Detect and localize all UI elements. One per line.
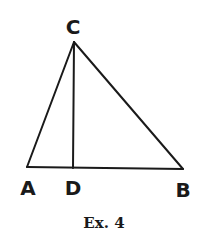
figure-caption: Ex. 4: [83, 214, 124, 232]
point-label-a: A: [20, 176, 36, 200]
point-label-b: B: [175, 178, 190, 202]
triangle-diagram: C A D B Ex. 4: [0, 0, 205, 234]
segment-ab: [27, 167, 183, 169]
point-label-d: D: [65, 176, 82, 200]
segment-ca: [27, 42, 74, 167]
segment-cd: [73, 42, 74, 168]
point-label-c: C: [66, 15, 81, 39]
segment-cb: [74, 42, 183, 169]
